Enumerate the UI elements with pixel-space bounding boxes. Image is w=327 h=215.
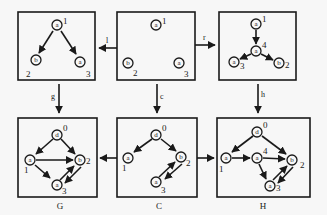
panel-top-left: a 1 b 2 a 3 [18,12,95,80]
svg-text:3: 3 [86,69,91,79]
svg-text:b: b [78,156,82,164]
panel-G: d 0 a 1 b 2 a 3 G [18,118,97,211]
svg-text:b: b [290,156,294,164]
svg-text:g: g [51,92,55,101]
svg-text:r: r [203,33,206,42]
svg-text:1: 1 [63,16,68,26]
svg-text:d: d [55,131,59,139]
panel-top-right: a 1 a 4 a 3 b 2 [219,12,296,80]
svg-text:1: 1 [262,14,267,24]
svg-text:2: 2 [186,158,191,168]
transition-l: l [99,36,117,48]
svg-text:l: l [106,36,109,45]
svg-text:2: 2 [133,68,138,78]
panel-H: d 0 a 1 a 4 b 2 a 3 H [217,118,310,211]
transition-c: c [157,84,164,113]
edge-a4-b2 [263,158,285,159]
svg-text:d: d [255,128,259,136]
svg-text:3: 3 [184,69,189,79]
svg-text:b: b [277,59,281,67]
svg-text:0: 0 [263,120,268,130]
svg-text:b: b [34,56,38,64]
svg-text:d: d [154,131,158,139]
svg-text:4: 4 [263,146,268,156]
diagram-canvas: a 1 b 2 a 3 a 1 b 2 a 3 [0,0,327,215]
transition-g: g [51,84,59,113]
svg-text:1: 1 [122,163,127,173]
svg-text:1: 1 [162,16,167,26]
panel-caption: G [57,201,64,211]
panel-top-center: a 1 b 2 a 3 [117,12,195,80]
svg-text:4: 4 [262,40,267,50]
transition-h: h [258,84,265,113]
panel-C: d 0 a 1 b 2 a 3 C [117,118,197,211]
svg-text:0: 0 [63,123,68,133]
svg-text:2: 2 [300,160,305,170]
svg-text:2: 2 [26,69,31,79]
svg-text:3: 3 [62,186,67,196]
svg-text:b: b [179,153,183,161]
panel-caption: H [260,201,267,211]
panel-caption: C [156,201,162,211]
svg-text:3: 3 [276,183,281,193]
svg-text:3: 3 [240,61,245,71]
svg-text:1: 1 [219,164,224,174]
svg-text:1: 1 [24,165,29,175]
svg-text:2: 2 [285,60,290,70]
transition-r: r [195,33,215,45]
node-b2: b 2 [75,155,91,166]
svg-text:b: b [126,59,130,67]
svg-text:h: h [261,90,265,99]
svg-text:3: 3 [161,185,166,195]
svg-text:c: c [160,92,164,101]
svg-text:0: 0 [162,123,167,133]
svg-text:2: 2 [86,156,91,166]
